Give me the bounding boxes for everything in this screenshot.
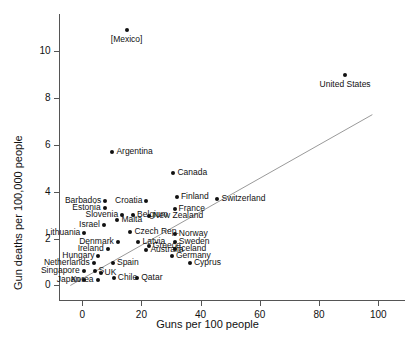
data-point	[215, 197, 219, 201]
data-point-label: Canada	[177, 168, 207, 177]
data-point	[110, 150, 114, 154]
y-tick-label: 10	[13, 45, 51, 56]
y-tick-mark	[54, 51, 59, 52]
data-point-label: UK	[105, 268, 117, 277]
data-point	[188, 261, 192, 265]
x-tick-mark	[201, 301, 202, 306]
y-axis-title: Gun deaths per 100,000 people	[12, 135, 24, 290]
x-axis-title: Guns per 100 people	[0, 318, 415, 330]
data-point-label: Spain	[117, 258, 139, 267]
data-point-label: Malta	[121, 215, 142, 224]
data-point	[125, 28, 129, 32]
data-point-label: Cyprus	[194, 258, 221, 267]
y-tick-mark	[54, 285, 59, 286]
data-point	[82, 269, 86, 273]
data-point	[115, 218, 119, 222]
data-point-label: Switzerland	[221, 194, 265, 203]
data-point-label: [Mexico]	[67, 35, 187, 44]
data-point	[144, 199, 148, 203]
data-point	[99, 271, 103, 275]
x-tick-mark	[378, 301, 379, 306]
x-axis-line	[59, 300, 406, 301]
data-point	[93, 269, 97, 273]
data-point	[170, 254, 174, 258]
data-point	[136, 240, 140, 244]
scatter-chart: 0246810020406080100 [Mexico]United State…	[0, 0, 415, 338]
data-point	[92, 261, 96, 265]
data-point	[135, 276, 139, 280]
data-point-label: Qatar	[141, 273, 162, 282]
data-point	[144, 248, 148, 252]
x-tick-mark	[319, 301, 320, 306]
y-tick-label: 8	[13, 92, 51, 103]
data-point	[175, 195, 179, 199]
data-point-label: Argentina	[116, 147, 152, 156]
data-point	[96, 254, 100, 258]
y-tick-mark	[54, 98, 59, 99]
data-point	[116, 240, 120, 244]
x-tick-mark	[141, 301, 142, 306]
data-point	[111, 261, 115, 265]
trend-line	[0, 0, 415, 338]
data-point	[128, 230, 132, 234]
data-point	[102, 223, 106, 227]
data-point	[82, 231, 86, 235]
data-point	[171, 171, 175, 175]
data-point-label: United States	[285, 80, 405, 89]
y-tick-mark	[54, 192, 59, 193]
data-point-label: Finland	[181, 192, 209, 201]
data-point	[173, 232, 177, 236]
data-point	[106, 247, 110, 251]
x-tick-mark	[260, 301, 261, 306]
data-point	[343, 73, 347, 77]
data-point	[96, 278, 100, 282]
y-tick-mark	[54, 145, 59, 146]
x-tick-mark	[82, 301, 83, 306]
data-point	[112, 276, 116, 280]
